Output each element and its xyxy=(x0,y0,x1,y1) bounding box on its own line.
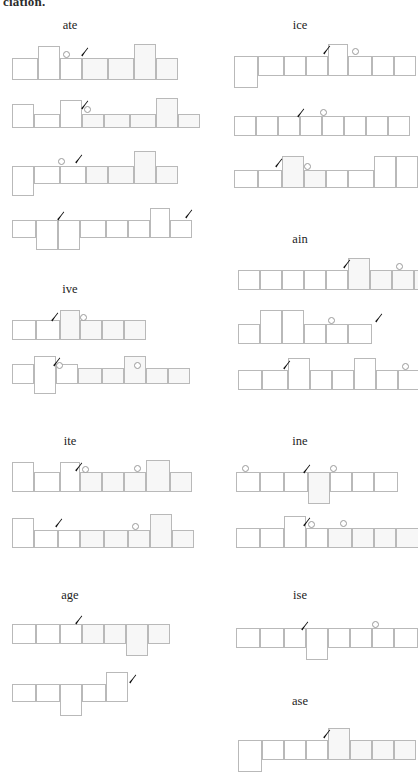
circle-marker-icon xyxy=(304,163,311,170)
grid-cell xyxy=(104,114,130,128)
grid-cell xyxy=(372,56,394,76)
grid-cell xyxy=(12,104,34,128)
circle-marker-icon xyxy=(242,465,249,472)
grid-cell xyxy=(82,58,108,80)
grid-cell xyxy=(306,628,328,660)
grid-cell xyxy=(86,166,108,184)
grid-cell xyxy=(102,472,124,492)
grid-cell xyxy=(150,514,172,548)
grid-cell xyxy=(376,370,398,390)
grid-cell xyxy=(372,628,394,648)
grid-cell xyxy=(106,672,128,702)
circle-marker-icon xyxy=(58,158,65,165)
grid-cell xyxy=(328,728,350,760)
grid-cell xyxy=(306,528,328,548)
grid-cell xyxy=(350,628,372,648)
grid-cell xyxy=(106,220,128,238)
grid-cell xyxy=(370,270,392,290)
circle-marker-icon xyxy=(80,314,87,321)
grid-cell xyxy=(156,166,178,184)
grid-cell xyxy=(12,220,36,238)
stress-tick-icon xyxy=(282,357,290,367)
grid-cell xyxy=(34,530,58,548)
stress-tick-icon xyxy=(184,206,192,216)
grid-cell xyxy=(394,740,416,760)
circle-marker-icon xyxy=(328,317,335,324)
grid-cell xyxy=(36,624,60,644)
stress-tick-icon xyxy=(302,461,310,471)
grid-cell xyxy=(156,98,178,128)
grid-cell xyxy=(104,624,126,644)
group-title-ate: ate xyxy=(30,18,110,33)
grid-cell xyxy=(148,624,170,644)
grid-cell xyxy=(396,528,418,548)
grid-cell xyxy=(170,220,192,238)
grid-cell xyxy=(330,472,352,492)
grid-cell xyxy=(80,530,104,548)
grid-cell xyxy=(352,472,374,492)
group-title-ise: ise xyxy=(260,588,340,603)
grid-cell xyxy=(282,156,304,188)
grid-cell xyxy=(260,528,284,548)
stress-tick-icon xyxy=(128,671,136,681)
grid-cell xyxy=(414,270,418,290)
grid-cell xyxy=(12,462,34,492)
circle-marker-icon xyxy=(402,363,409,370)
grid-cell xyxy=(38,46,60,80)
grid-cell xyxy=(310,370,332,390)
circle-marker-icon xyxy=(352,48,359,55)
group-title-ice: ice xyxy=(260,18,340,33)
stress-tick-icon xyxy=(374,310,382,320)
stress-tick-icon xyxy=(296,105,304,115)
grid-cell xyxy=(234,56,258,88)
grid-cell xyxy=(306,56,328,76)
stress-tick-icon xyxy=(302,514,310,524)
stress-tick-icon xyxy=(74,459,82,469)
group-title-ive: ive xyxy=(30,282,110,297)
circle-marker-icon xyxy=(134,465,141,472)
grid-cell xyxy=(260,472,284,492)
grid-cell xyxy=(130,114,156,128)
grid-cell xyxy=(288,358,310,390)
stress-tick-icon xyxy=(80,44,88,54)
stress-tick-icon xyxy=(52,354,60,364)
grid-cell xyxy=(128,220,150,238)
grid-cell xyxy=(374,156,396,188)
grid-cell xyxy=(282,310,304,344)
grid-cell xyxy=(34,472,60,492)
grid-cell xyxy=(304,270,326,290)
grid-cell xyxy=(102,320,124,340)
grid-cell xyxy=(60,310,80,340)
grid-cell xyxy=(36,684,60,702)
grid-cell xyxy=(332,370,354,390)
grid-cell xyxy=(108,166,134,184)
grid-cell xyxy=(12,624,36,644)
circle-marker-icon xyxy=(372,621,379,628)
grid-cell xyxy=(394,56,416,76)
grid-cell xyxy=(350,740,372,760)
grid-cell xyxy=(348,324,372,344)
grid-cell xyxy=(306,740,328,760)
grid-cell xyxy=(352,528,374,548)
group-title-ain: ain xyxy=(260,232,340,247)
grid-cell xyxy=(396,156,418,188)
grid-cell xyxy=(172,530,194,548)
grid-cell xyxy=(80,320,102,340)
grid-cell xyxy=(304,324,326,344)
grid-cell xyxy=(128,530,150,548)
grid-cell xyxy=(60,100,82,128)
stress-tick-icon xyxy=(342,256,350,266)
grid-cell xyxy=(326,270,348,290)
grid-cell xyxy=(124,472,146,492)
grid-cell xyxy=(34,166,60,184)
grid-cell xyxy=(308,472,330,504)
grid-cell xyxy=(284,472,308,492)
grid-cell xyxy=(78,368,102,384)
stress-tick-icon xyxy=(74,151,82,161)
grid-cell xyxy=(398,370,418,390)
grid-cell xyxy=(284,740,306,760)
grid-cell xyxy=(80,220,106,238)
grid-cell xyxy=(150,208,170,238)
grid-cell xyxy=(328,44,348,76)
grid-cell xyxy=(238,370,262,390)
